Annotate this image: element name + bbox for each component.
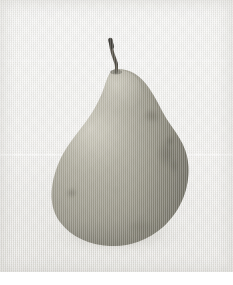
- stem-svg: [0, 0, 233, 285]
- stem-tip: [110, 40, 112, 47]
- stem-base-shadow: [110, 69, 122, 74]
- footer-white-strip: [0, 272, 233, 285]
- photo-canvas: [0, 0, 233, 285]
- pear-group: [0, 0, 233, 285]
